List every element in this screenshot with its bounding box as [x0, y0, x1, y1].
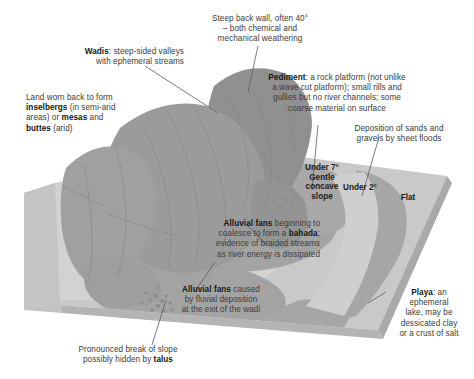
label-wadis-text: : steep-sided valleys with ephemeral str… — [96, 47, 184, 66]
label-break-of-slope: Pronounced break of slope possibly hidde… — [48, 345, 208, 365]
label-inselbergs-end: (arid) — [51, 124, 73, 133]
label-pediment-term: Pediment — [268, 73, 305, 82]
label-playa-term: Playa — [411, 288, 433, 297]
label-playa: Playa: an ephemeral lake, may be dessica… — [388, 288, 470, 339]
label-inselbergs-line1: Land worn back to form — [26, 93, 113, 102]
label-bahada-term: Alluvial fans — [224, 219, 273, 228]
label-steep-back-wall: Steep back wall, often 40° – both chemic… — [186, 14, 334, 45]
label-inselbergs: Land worn back to form inselbergs (in se… — [26, 93, 166, 134]
label-bahada-term2: bahada — [289, 229, 318, 238]
label-inselbergs-term1: inselbergs — [26, 103, 67, 112]
label-pediment: Pediment: a rock platform (not unlike a … — [244, 73, 430, 114]
label-wadis-term: Wadis — [85, 47, 109, 56]
label-alluvial-fans: Alluvial fans caused by fluvial depositi… — [156, 285, 286, 316]
diagram-canvas: Under 7° Gentle concave slope Under 2° F… — [0, 0, 474, 379]
label-inselbergs-mid2: and — [87, 113, 103, 122]
label-alluvial-fans-term: Alluvial fans — [182, 285, 231, 294]
label-inselbergs-term2: mesas — [62, 113, 88, 122]
label-deposition: Deposition of sands and gravels by sheet… — [334, 124, 464, 144]
annotation-flat: Flat — [391, 193, 425, 203]
label-break-of-slope-term: talus — [154, 355, 173, 364]
block-left-cut-face-inner — [24, 183, 60, 310]
annotation-under-2-degrees: Under 2° — [336, 183, 384, 193]
label-bahada: Alluvial fans beginning to coalesce to f… — [184, 219, 320, 260]
label-inselbergs-term3: buttes — [26, 124, 51, 133]
label-wadis: Wadis: steep-sided valleys with ephemera… — [24, 47, 184, 67]
